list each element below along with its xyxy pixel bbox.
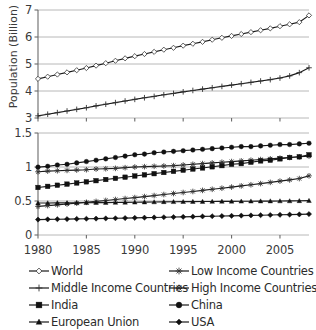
data-point-marker [142, 164, 148, 170]
series-european-union [36, 198, 312, 205]
legend-item[interactable]: Middle Income Countries [28, 279, 188, 296]
legend-item[interactable]: Low Income Countries [168, 262, 316, 279]
data-point-marker [219, 185, 225, 191]
data-point-marker [277, 75, 283, 81]
data-point-marker [74, 181, 79, 186]
data-point-marker [190, 161, 196, 167]
data-point-marker [229, 162, 234, 167]
data-point-marker [249, 144, 254, 149]
data-point-marker [93, 103, 99, 109]
legend-item[interactable]: World [28, 262, 188, 279]
data-point-marker [142, 152, 147, 157]
data-point-marker [55, 72, 60, 77]
data-point-marker [180, 190, 186, 196]
data-point-marker [74, 216, 79, 221]
data-point-marker [239, 144, 244, 149]
y-axis-tick-label: 4 [2, 84, 32, 98]
data-point-marker [94, 178, 99, 183]
data-point-marker [200, 39, 205, 44]
filled-circle-icon [168, 298, 190, 312]
data-point-marker [190, 189, 196, 195]
data-point-marker [132, 164, 138, 170]
data-point-marker [103, 216, 108, 221]
data-point-marker [45, 164, 50, 169]
bottom-chart-panel: 00.511.5 [0, 125, 316, 245]
data-point-marker [181, 148, 186, 153]
data-point-marker [180, 162, 186, 168]
data-point-marker [248, 30, 253, 35]
x-axis-tick-label: 1990 [115, 243, 155, 257]
data-point-marker [123, 215, 128, 220]
data-point-marker [132, 97, 138, 103]
data-point-marker [287, 22, 292, 27]
data-point-marker [84, 65, 89, 70]
bottom-chart-plot [0, 125, 316, 245]
data-point-marker [268, 158, 273, 163]
data-point-marker [258, 181, 264, 187]
data-point-marker [84, 105, 90, 111]
data-point-marker [45, 217, 50, 222]
data-point-marker [35, 217, 40, 222]
top-chart-panel: Population (Billion) 34567 [0, 0, 316, 125]
data-point-marker [210, 37, 215, 42]
series-usa [35, 211, 311, 222]
data-point-marker [268, 212, 273, 217]
data-point-marker [162, 150, 167, 155]
y-axis-tick-label: 0 [2, 228, 32, 242]
data-point-marker [287, 155, 292, 160]
filled-square-glyph [36, 302, 42, 308]
data-point-marker [238, 81, 244, 87]
data-point-marker [287, 73, 293, 79]
data-point-marker [84, 159, 89, 164]
filled-diamond-glyph [176, 319, 182, 325]
data-point-marker [36, 185, 41, 190]
legend-label: China [190, 298, 223, 312]
data-point-marker [74, 161, 79, 166]
data-point-marker [103, 166, 109, 172]
data-point-marker [277, 24, 282, 29]
x-axis-tick-label: 1985 [66, 243, 106, 257]
data-point-marker [209, 85, 215, 91]
data-point-marker [132, 215, 137, 220]
data-point-marker [55, 217, 60, 222]
data-point-marker [94, 158, 99, 163]
legend-item[interactable]: USA [168, 313, 316, 330]
data-point-marker [248, 213, 253, 218]
legend-item[interactable]: China [168, 296, 316, 313]
data-point-marker [162, 170, 167, 175]
data-point-marker [113, 58, 118, 63]
data-point-marker [287, 212, 292, 217]
legend-item[interactable]: European Union [28, 313, 188, 330]
data-point-marker [151, 193, 157, 199]
data-point-marker [171, 169, 176, 174]
data-point-marker [287, 142, 292, 147]
data-point-marker [45, 184, 50, 189]
data-point-marker [64, 216, 69, 221]
series-world [35, 13, 311, 82]
data-point-marker [35, 169, 41, 175]
data-point-marker [277, 212, 282, 217]
data-point-marker [219, 213, 224, 218]
x-axis-tick-labels: 198019851990199520002005 [0, 243, 316, 261]
legend-item[interactable]: India [28, 296, 188, 313]
star-glyph [176, 267, 183, 274]
data-point-marker [113, 100, 119, 106]
legend-item[interactable]: High Income Countries [168, 279, 316, 296]
legend-label: Low Income Countries [190, 264, 313, 278]
data-point-marker [229, 33, 234, 38]
data-point-marker [132, 174, 137, 179]
data-point-marker [277, 178, 283, 184]
data-point-marker [122, 165, 128, 171]
data-point-marker [132, 152, 137, 157]
data-point-marker [161, 215, 166, 220]
data-point-marker [220, 163, 225, 168]
x-axis-tick-label: 2005 [260, 243, 300, 257]
data-point-marker [103, 61, 108, 66]
data-point-marker [152, 171, 157, 176]
data-point-marker [307, 141, 312, 146]
asterisk-icon [168, 281, 190, 295]
population-chart-figure: Population (Billion) 34567 00.511.5 1980… [0, 0, 316, 330]
data-point-marker [287, 177, 293, 183]
data-point-marker [74, 167, 80, 173]
data-point-marker [55, 168, 61, 174]
